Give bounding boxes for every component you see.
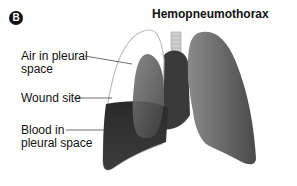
healthy-lung	[188, 32, 256, 165]
hemopneumothorax-illustration	[0, 0, 297, 186]
collapsed-lung	[133, 54, 164, 138]
